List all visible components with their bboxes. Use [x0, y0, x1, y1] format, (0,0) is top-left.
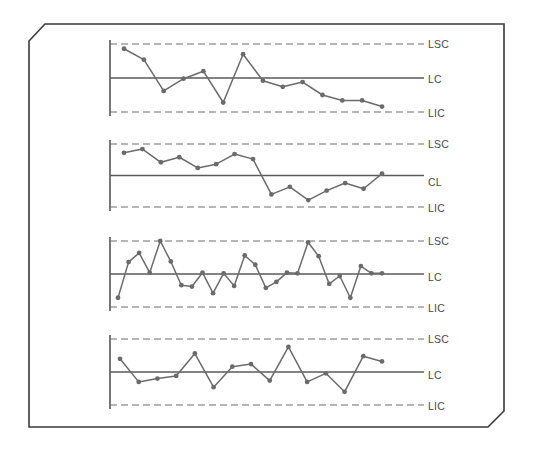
data-point [221, 100, 226, 105]
chart4-center-line-label: LC [428, 370, 442, 381]
data-point [327, 282, 332, 287]
data-point [122, 150, 127, 155]
data-point [190, 284, 195, 289]
data-point [380, 359, 385, 364]
data-point [287, 184, 292, 189]
data-point [158, 239, 163, 244]
data-point [306, 198, 311, 203]
data-point [342, 389, 347, 394]
data-point [261, 78, 266, 83]
chart1-upper-limit-label: LSC [428, 39, 449, 50]
chart2-lower-limit-label: LIC [428, 203, 445, 214]
data-point [195, 166, 200, 171]
control-chart-figure: LSC LC LIC LSC CL LIC LSC LC LIC LSC LC … [0, 0, 534, 449]
data-point [380, 271, 385, 276]
data-point [201, 69, 206, 74]
series-line [124, 149, 382, 200]
data-point [360, 98, 365, 103]
data-point [358, 264, 363, 269]
data-point [116, 295, 121, 300]
data-point [126, 260, 131, 265]
data-point [147, 270, 152, 275]
data-point [214, 162, 219, 167]
control-chart-1 [110, 40, 424, 116]
data-point [280, 84, 285, 89]
data-point [285, 270, 290, 275]
data-point [118, 356, 123, 361]
chart4-lower-limit-label: LIC [428, 401, 445, 412]
data-point [242, 253, 247, 258]
control-chart-3 [110, 237, 424, 311]
chart1-lower-limit-label: LIC [428, 108, 445, 119]
data-point [241, 52, 246, 57]
chart1-center-line-label: LC [428, 74, 442, 85]
data-point [269, 192, 274, 197]
data-point [369, 271, 374, 276]
data-point [316, 254, 321, 259]
data-point [122, 46, 127, 51]
chart3-center-line-label: LC [428, 272, 442, 283]
data-point [179, 283, 184, 288]
data-point [337, 274, 342, 279]
series-line [120, 347, 382, 392]
data-point [136, 380, 141, 385]
data-point [140, 147, 145, 152]
data-point [200, 270, 205, 275]
data-point [324, 188, 329, 193]
data-point [141, 57, 146, 62]
data-point [267, 378, 272, 383]
data-point [348, 295, 353, 300]
control-chart-4 [110, 335, 424, 409]
charts-layer [0, 0, 534, 449]
data-point [232, 283, 237, 288]
data-point [249, 362, 254, 367]
data-point [340, 98, 345, 103]
chart4-upper-limit-label: LSC [428, 334, 449, 345]
chart3-lower-limit-label: LIC [428, 303, 445, 314]
data-point [253, 262, 258, 267]
control-chart-2 [110, 140, 424, 211]
data-point [251, 157, 256, 162]
chart2-center-line-label: CL [428, 177, 442, 188]
data-point [161, 89, 166, 94]
data-point [230, 364, 235, 369]
data-point [361, 186, 366, 191]
data-point [323, 371, 328, 376]
data-point [158, 160, 163, 165]
series-line [118, 241, 382, 298]
data-point [320, 93, 325, 98]
data-point [380, 171, 385, 176]
data-point [168, 259, 173, 264]
data-point [177, 155, 182, 160]
data-point [343, 181, 348, 186]
data-point [286, 345, 291, 350]
data-point [181, 76, 186, 81]
data-point [211, 385, 216, 390]
data-point [380, 104, 385, 109]
data-point [221, 271, 226, 276]
data-point [211, 291, 216, 296]
data-point [192, 351, 197, 356]
data-point [155, 376, 160, 381]
chart3-upper-limit-label: LSC [428, 236, 449, 247]
data-point [137, 250, 142, 255]
data-point [300, 80, 305, 85]
data-point [274, 280, 279, 285]
chart2-upper-limit-label: LSC [428, 139, 449, 150]
data-point [361, 354, 366, 359]
data-point [295, 271, 300, 276]
data-point [306, 240, 311, 245]
data-point [232, 152, 237, 157]
data-point [174, 374, 179, 379]
data-point [305, 380, 310, 385]
data-point [263, 285, 268, 290]
